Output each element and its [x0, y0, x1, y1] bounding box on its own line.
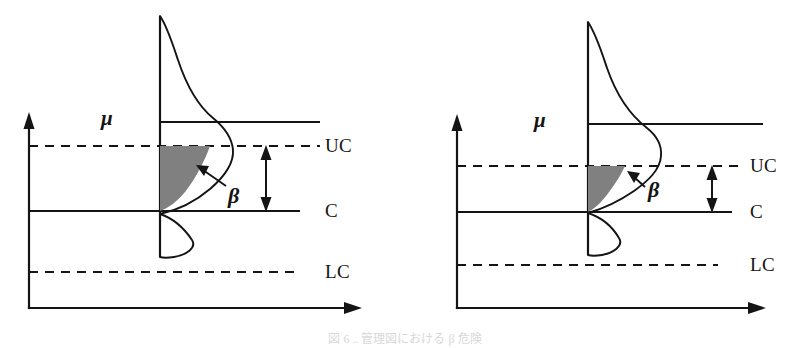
- uc-label: UC: [325, 136, 352, 155]
- beta-shaded-region: [160, 146, 210, 211]
- right-panel: μ UC C LC β: [405, 0, 810, 330]
- c-label: C: [750, 202, 763, 221]
- lc-label: LC: [325, 262, 350, 281]
- uc-label: UC: [750, 156, 777, 175]
- measure-arrowhead-up: [707, 165, 718, 180]
- lc-label: LC: [750, 255, 775, 274]
- beta-label: β: [648, 179, 659, 201]
- measure-arrowhead-up: [261, 145, 272, 160]
- y-axis-arrowhead: [452, 114, 463, 131]
- x-axis-arrowhead: [344, 302, 362, 314]
- measure-arrowhead-down: [707, 198, 718, 213]
- left-panel: μ UC C LC β: [0, 0, 405, 330]
- c-label: C: [325, 201, 338, 220]
- y-axis-arrowhead: [24, 112, 35, 129]
- beta-leader-line: [203, 170, 226, 186]
- mu-label: μ: [534, 110, 546, 131]
- x-axis-arrowhead: [748, 302, 766, 314]
- measure-arrowhead-down: [261, 197, 272, 212]
- figure-caption: 図 6 .. 管理図における β 危険: [0, 330, 810, 348]
- beta-label: β: [228, 185, 239, 207]
- distribution-curve-tail: [160, 214, 193, 258]
- beta-shaded-region: [588, 166, 625, 212]
- distribution-curve-tail: [588, 213, 620, 256]
- figure-root: μ UC C LC β: [0, 0, 810, 348]
- mu-label: μ: [101, 108, 113, 129]
